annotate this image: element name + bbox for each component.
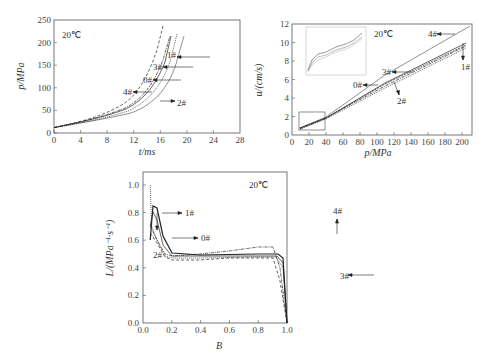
x-tick: 200	[455, 137, 469, 147]
x-tick: 28	[236, 135, 246, 145]
inset-chart	[306, 27, 366, 75]
y-tick: 150	[38, 60, 52, 70]
x-tick: 0	[290, 137, 295, 147]
x-tick: 140	[404, 137, 418, 147]
x-axis-label: p/MPa	[363, 147, 391, 158]
temperature-label: 20℃	[374, 29, 393, 39]
series-label-4: 4#	[123, 87, 133, 97]
x-tick: 20	[182, 135, 192, 145]
series-label-2: 2#	[397, 96, 407, 106]
x-axis-label: t/ms	[139, 146, 156, 157]
y-tick: 12	[280, 19, 289, 29]
series-label-3: 3#	[382, 67, 392, 77]
x-axis-label: B	[216, 340, 222, 351]
chart-L-vs-B: 0.0 0.2 0.4 0.6 0.8 1.0 0.0 0.2 0.4 0.6 …	[104, 172, 374, 351]
y-tick: 0.4	[128, 263, 140, 273]
x-tick: 16	[156, 135, 166, 145]
y-tick: 200	[38, 38, 52, 48]
y-tick: 10	[280, 38, 290, 48]
x-tick: 20	[305, 137, 315, 147]
y-tick: 50	[42, 105, 52, 115]
x-tick: 0.6	[224, 325, 236, 335]
y-tick: 100	[38, 83, 52, 93]
chart-u-vs-p: 0 20 40 60 80 100 120 140 160 180 200 0 …	[253, 19, 472, 158]
x-tick: 0	[52, 135, 57, 145]
series-label-4: 4#	[428, 29, 438, 39]
x-tick: 0.4	[195, 325, 207, 335]
y-tick: 6	[285, 75, 290, 85]
y-tick: 0	[285, 130, 290, 140]
x-tick: 4	[78, 135, 83, 145]
series-label-3: 3#	[340, 271, 350, 281]
x-tick: 100	[370, 137, 384, 147]
y-tick: 0.2	[128, 290, 139, 300]
chart-p-vs-t: 0 4 8 12 16 20 24 28 0 50 100 150 200 25…	[15, 15, 245, 157]
series-label-0: 0#	[353, 80, 363, 90]
temperature-label: 20℃	[249, 180, 268, 190]
series-label-2: 2#	[153, 250, 163, 260]
series-label-1: 1#	[185, 208, 195, 218]
x-tick: 160	[421, 137, 435, 147]
y-axis-label: p/MPa	[15, 62, 26, 90]
y-tick: 2	[285, 112, 290, 122]
x-tick: 24	[209, 135, 219, 145]
figure: 0 4 8 12 16 20 24 28 0 50 100 150 200 25…	[0, 0, 486, 361]
temperature-label: 20℃	[62, 30, 81, 40]
y-tick: 4	[285, 93, 290, 103]
y-axis-label: u/(cm/s)	[253, 63, 265, 96]
series-label-3: 3#	[153, 62, 163, 72]
x-tick: 80	[356, 137, 366, 147]
y-tick: 0.0	[128, 318, 140, 328]
series-label-0: 0#	[201, 233, 211, 243]
x-tick: 8	[105, 135, 110, 145]
series-label-1: 1#	[167, 50, 177, 60]
series-label-0: 0#	[143, 75, 153, 85]
series-label-1: 1#	[461, 62, 471, 72]
y-tick: 0.6	[128, 235, 140, 245]
x-tick: 0.0	[137, 325, 149, 335]
y-tick: 8	[285, 56, 290, 66]
y-axis-label: L/(MPa⁻¹·s⁻¹)	[104, 219, 116, 277]
x-tick: 60	[339, 137, 349, 147]
y-tick: 250	[38, 15, 52, 25]
x-tick: 0.8	[253, 325, 265, 335]
y-tick: 0	[47, 128, 52, 138]
x-tick: 12	[129, 135, 138, 145]
series-label-4: 4#	[333, 206, 343, 216]
series-label-2: 2#	[177, 98, 187, 108]
y-tick: 0.8	[128, 208, 140, 218]
x-tick: 1.0	[281, 325, 293, 335]
x-tick: 180	[438, 137, 452, 147]
x-tick: 120	[387, 137, 401, 147]
x-tick: 0.2	[166, 325, 177, 335]
y-tick: 1.0	[128, 180, 140, 190]
x-tick: 40	[322, 137, 332, 147]
